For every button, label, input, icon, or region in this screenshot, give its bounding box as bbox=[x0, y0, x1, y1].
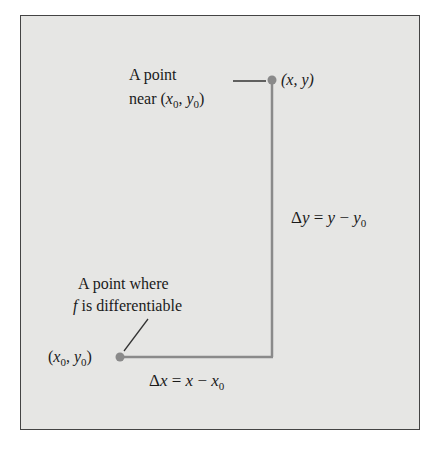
diff-point-label-line1: A point where bbox=[78, 274, 169, 293]
delta-y-equation: Δy = y − y0 bbox=[291, 208, 366, 233]
diff-point-leader bbox=[124, 319, 148, 351]
delta-x-equation: Δx = x − x0 bbox=[149, 371, 224, 396]
point-xy-label: (x, y) bbox=[281, 70, 314, 89]
near-point-label-line1: A point bbox=[129, 65, 177, 84]
diff-point-label-line2: f is differentiable bbox=[73, 296, 182, 315]
near-point-dot bbox=[268, 76, 277, 85]
base-point-dot bbox=[116, 353, 125, 362]
near-point-label-line2: near (x0, y0) bbox=[129, 89, 204, 114]
base-point-label: (x0, y0) bbox=[48, 347, 92, 372]
